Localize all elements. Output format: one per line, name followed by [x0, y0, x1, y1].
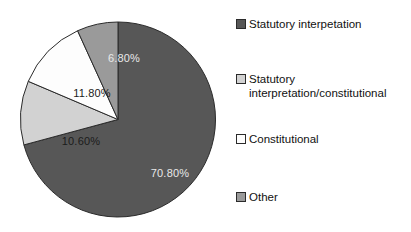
pie-slice-label-constitutional: 11.80% [73, 87, 111, 99]
pie-chart-figure: 70.80% 10.60% 11.80% 6.80% Statutory int… [0, 0, 411, 232]
legend-item-statutory-interpretation-constitutional[interactable]: Statutory interpretation/constitutional [236, 72, 408, 100]
pie-slice-label-statutory-interpretation-constitutional: 10.60% [62, 135, 101, 147]
legend-swatch-icon [236, 134, 246, 144]
legend-swatch-icon [236, 19, 246, 29]
pie-slice-label-other: 6.80% [108, 52, 140, 64]
legend-item-label: Statutory interpretation/constitutional [249, 72, 386, 100]
chart-legend: Statutory interpetation Statutory interp… [236, 10, 408, 210]
legend-item-label: Constitutional [249, 132, 319, 146]
legend-swatch-icon [236, 74, 246, 84]
legend-item-statutory-interpetation[interactable]: Statutory interpetation [236, 17, 408, 31]
pie-chart-svg: 70.80% 10.60% 11.80% 6.80% [20, 21, 216, 218]
pie-slice-label-statutory-interpetation: 70.80% [151, 167, 190, 179]
legend-swatch-icon [236, 192, 246, 202]
pie-chart: 70.80% 10.60% 11.80% 6.80% [20, 21, 216, 218]
legend-item-label: Statutory interpetation [249, 17, 362, 31]
legend-item-constitutional[interactable]: Constitutional [236, 132, 408, 146]
legend-item-label: Other [249, 190, 278, 204]
legend-item-other[interactable]: Other [236, 190, 408, 204]
